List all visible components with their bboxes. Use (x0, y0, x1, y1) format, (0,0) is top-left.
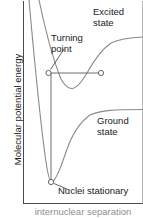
ground-minimum-marker (48, 179, 53, 184)
x-axis-label: internuclear separation (23, 206, 143, 217)
ground-state-curve (29, 0, 143, 182)
turning-point-marker-right (98, 70, 103, 75)
y-axis-label: Molecular potential energy (12, 35, 23, 185)
excited-state-label: Excited state (93, 7, 124, 28)
nuclei-stationary-label: Nuclei stationary (58, 186, 128, 197)
potential-energy-diagram: Molecular potential energy internuclear … (0, 0, 143, 218)
turning-point-label: Turning point (51, 33, 83, 54)
ground-state-label: Ground state (97, 116, 129, 137)
turning-point-marker-left (46, 70, 51, 75)
